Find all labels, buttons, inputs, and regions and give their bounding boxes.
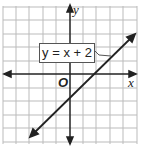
equation-label: y = x + 2 xyxy=(39,43,95,63)
x-axis-label: x xyxy=(128,75,134,91)
graph xyxy=(0,0,141,147)
y-axis-label: y xyxy=(73,2,79,18)
origin-label: O xyxy=(58,75,68,90)
